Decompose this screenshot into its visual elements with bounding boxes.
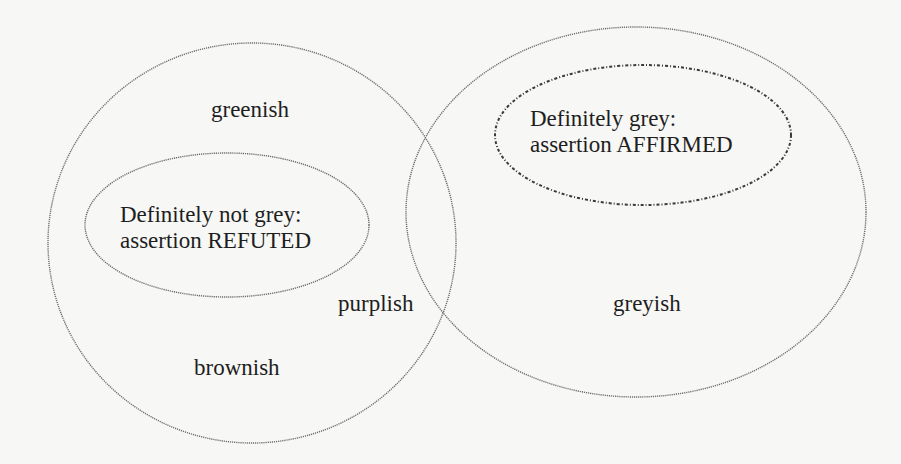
label-refuted-line2: assertion REFUTED bbox=[120, 228, 311, 254]
label-greyish: greyish bbox=[613, 291, 681, 317]
label-purplish: purplish bbox=[338, 291, 413, 317]
right-outer-ellipse bbox=[406, 27, 866, 397]
label-brownish: brownish bbox=[194, 355, 280, 381]
label-refuted-line1: Definitely not grey: bbox=[120, 202, 301, 228]
venn-diagram: greenish Definitely not grey: assertion … bbox=[0, 0, 901, 464]
label-affirmed-line1: Definitely grey: bbox=[530, 106, 676, 132]
label-greenish: greenish bbox=[211, 97, 289, 123]
label-affirmed-line2: assertion AFFIRMED bbox=[530, 132, 733, 158]
